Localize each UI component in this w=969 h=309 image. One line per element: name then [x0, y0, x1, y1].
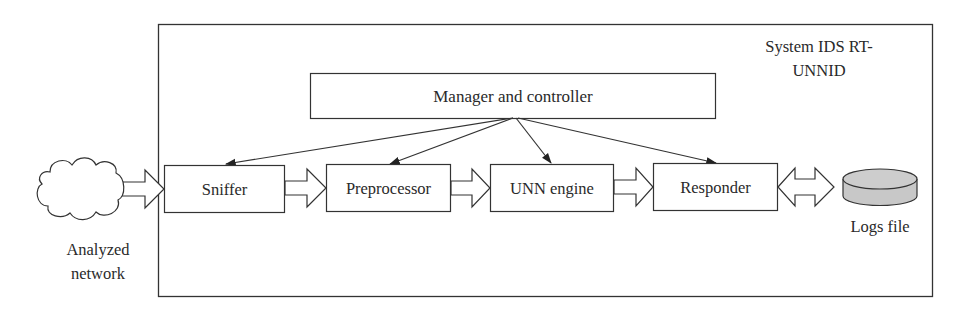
arrow-manager-to-sniffer: [226, 118, 513, 164]
arrow-manager-to-preprocessor: [390, 118, 513, 164]
pipeline-node-preprocessor: Preprocessor: [327, 165, 451, 212]
manager-label: Manager and controller: [433, 87, 593, 106]
ids-architecture-diagram: System IDS RT- UNNID Manager and control…: [0, 0, 969, 309]
system-title-line2: UNNID: [792, 61, 845, 80]
control-arrows: [226, 118, 716, 164]
system-title-line1: System IDS RT-: [765, 37, 873, 56]
flow-arrow-unn-engine-to-responder: [614, 168, 653, 206]
responder-label: Responder: [680, 178, 751, 197]
preprocessor-label: Preprocessor: [346, 179, 432, 198]
manager-controller-node: Manager and controller: [311, 74, 716, 119]
network-label-line1: Analyzed: [66, 240, 130, 259]
cloud-icon: [37, 158, 124, 220]
unn-engine-label: UNN engine: [510, 179, 594, 198]
flow-arrow-preprocessor-to-unn-engine: [451, 169, 490, 207]
flow-arrow-network-to-sniffer: [122, 170, 164, 208]
pipeline-node-unn-engine: UNN engine: [491, 165, 614, 212]
bidirectional-arrow-responder-logs: [778, 168, 834, 206]
logs-file-label: Logs file: [850, 217, 909, 236]
database-cylinder-icon: [843, 169, 917, 206]
pipeline-node-responder: Responder: [654, 164, 778, 211]
pipeline-node-sniffer: Sniffer: [165, 166, 285, 213]
network-label-line2: network: [71, 264, 126, 283]
flow-arrow-sniffer-to-preprocessor: [285, 169, 326, 207]
sniffer-label: Sniffer: [202, 180, 248, 199]
arrow-manager-to-responder: [518, 118, 716, 163]
